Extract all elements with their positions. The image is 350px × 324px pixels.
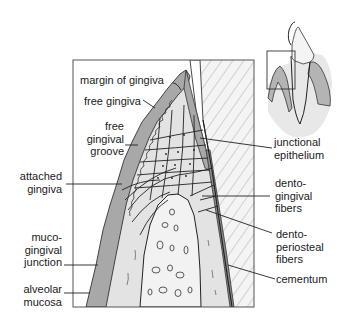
inset-tooth-overview [267,22,332,137]
label-dentogingival-fibers: dento- gingival fibers [275,177,312,215]
label-attached-gingiva: attached gingiva [10,170,62,195]
label-mucogingival-junction: muco- gingival junction [10,231,62,269]
label-margin-of-gingiva: margin of gingiva [80,74,164,87]
label-free-gingival-groove: free gingival groove [82,120,124,158]
label-alveolar-mucosa: alveolar mucosa [10,283,62,308]
label-dentoperiosteal-fibers: dento- periosteal fibers [276,228,324,266]
label-free-gingiva: free gingiva [84,95,141,108]
label-junctional-epithelium: junctional epithelium [274,136,324,161]
label-cementum: cementum [276,273,327,286]
